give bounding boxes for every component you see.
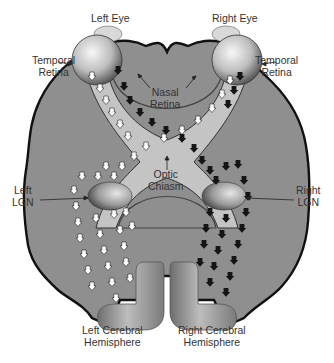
left-hemisphere-label: Left Cerebral Hemisphere: [82, 324, 143, 348]
right-hemisphere-label: Right Cerebral Hemisphere: [178, 324, 246, 348]
left-eye-label: Left Eye: [91, 12, 130, 24]
left-eye: [72, 26, 122, 85]
temporal-retina-right-label: Temporal Retina: [255, 54, 298, 78]
optic-chiasm-label: Optic Chiasm: [148, 168, 184, 192]
right-lgn: [202, 182, 246, 210]
nasal-retina-label: Nasal Retina: [150, 86, 180, 110]
left-lgn-label: Left LGN: [12, 184, 34, 208]
left-lgn: [88, 182, 132, 210]
right-eye-label: Right Eye: [212, 12, 258, 24]
right-lgn-label: Right LGN: [296, 184, 321, 208]
temporal-retina-left-label: Temporal Retina: [32, 54, 75, 78]
